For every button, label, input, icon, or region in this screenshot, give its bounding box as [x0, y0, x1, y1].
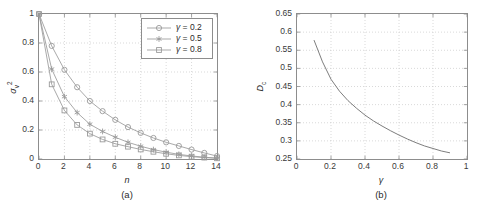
legend-a: γ = 0.2γ = 0.5γ = 0.8 — [141, 18, 213, 59]
x-tick-label: 12 — [181, 162, 201, 171]
x-axis-label-b: γ — [371, 176, 391, 185]
x-tick-label: 0.4 — [352, 162, 376, 171]
panel-b-caption: (b) — [361, 190, 401, 200]
legend-label: γ = 0.5 — [176, 34, 202, 43]
x-tick-label: 6 — [104, 162, 124, 171]
legend-entry: γ = 0.2 — [146, 22, 207, 33]
x-tick-label: 10 — [155, 162, 175, 171]
x-tick-label: 0.2 — [318, 162, 342, 171]
y-tick-label: 0.4 — [263, 100, 292, 109]
x-tick-label: 4 — [79, 162, 99, 171]
x-tick-label: 2 — [53, 162, 73, 171]
legend-label: γ = 0.2 — [176, 23, 202, 32]
y-tick-label: 0.6 — [6, 67, 34, 76]
y-axis-label-base: D — [255, 85, 265, 92]
y-tick-label: 0.65 — [263, 9, 292, 18]
y-axis-label-a: σv2 — [7, 75, 20, 99]
legend-marker-star-icon — [146, 34, 172, 44]
y-axis-label-subscript: v — [13, 85, 20, 88]
y-axis-label-subscript: c — [260, 81, 267, 84]
figure-canvas: 00.20.40.60.81 02468101214 σv2 n (a) γ =… — [0, 0, 491, 210]
y-tick-label: 0.3 — [263, 136, 292, 145]
plot-area-b — [296, 13, 468, 160]
legend-entry: γ = 0.8 — [146, 44, 207, 55]
chart-panel-b: 0.250.30.350.40.450.50.550.60.65 00.20.4… — [240, 0, 491, 210]
y-axis-label-exponent: 2 — [6, 81, 13, 85]
legend-label: γ = 0.8 — [176, 45, 202, 54]
y-tick-label: 0.6 — [263, 27, 292, 36]
legend-entry: γ = 0.5 — [146, 33, 207, 44]
y-tick-label: 0.2 — [6, 125, 34, 134]
legend-marker-circle-icon — [146, 23, 172, 33]
x-tick-label: 0.8 — [420, 162, 444, 171]
y-tick-label: 1 — [6, 9, 34, 18]
y-tick-label: 0.55 — [263, 45, 292, 54]
y-axis-label-base: σ — [8, 88, 18, 93]
x-tick-label: 8 — [130, 162, 150, 171]
x-tick-label: 0.6 — [386, 162, 410, 171]
y-tick-label: 0.35 — [263, 118, 292, 127]
x-tick-label: 1 — [454, 162, 478, 171]
y-axis-label-b: Dc — [256, 74, 267, 98]
x-tick-label: 14 — [206, 162, 226, 171]
x-tick-label: 0 — [28, 162, 48, 171]
panel-a-caption: (a) — [107, 190, 147, 200]
x-tick-label: 0 — [284, 162, 308, 171]
plot-svg-b — [297, 14, 467, 159]
chart-panel-a: 00.20.40.60.81 02468101214 σv2 n (a) γ =… — [0, 0, 240, 210]
legend-marker-square-icon — [146, 45, 172, 55]
y-tick-label: 0.8 — [6, 38, 34, 47]
y-tick-label: 0.5 — [263, 63, 292, 72]
x-axis-label-a: n — [117, 176, 137, 185]
